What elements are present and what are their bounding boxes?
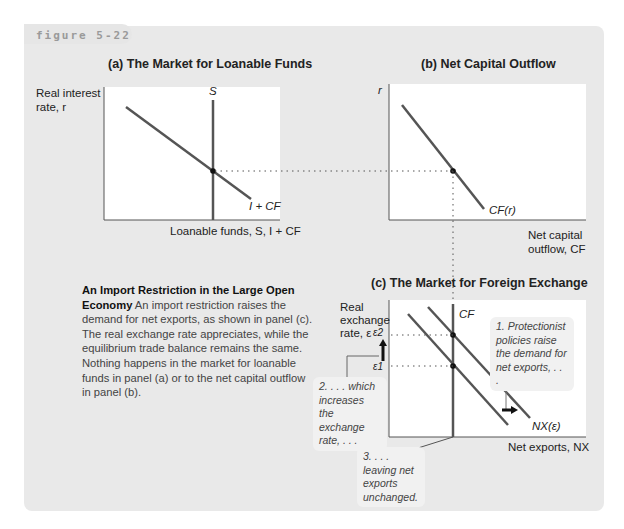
panel-c-title: (c) The Market for Foreign Exchange [371, 276, 588, 290]
panel-b-xlabel-1: Net capital [528, 228, 582, 242]
up-arrow-icon [379, 339, 387, 346]
annotation-3: 3. . . . leaving net exports unchanged. [357, 447, 425, 507]
panel-a-ylabel-2: rate, r [36, 100, 66, 114]
note3-connector [418, 437, 453, 448]
curve-label-nx: NX(ε) [532, 419, 561, 433]
curve-label-cf-r: CF(r) [489, 203, 516, 217]
curve-label-s: S [209, 84, 217, 98]
panel-c-ylabel-1: Real [340, 300, 364, 314]
annotation-1: 1. Protectionist policies raise the dema… [490, 317, 574, 391]
curve-label-i-cf: I + CF [249, 199, 281, 213]
tick-e1: ε1 [373, 360, 383, 374]
panel-b-xlabel-2: outflow, CF [528, 242, 586, 256]
panel-c-ylabel-3: rate, ε [340, 326, 371, 340]
figure-caption: An Import Restriction in the Large Open … [82, 283, 317, 400]
annotation-2: 2. . . . which increases the exchange ra… [313, 377, 387, 451]
caption-body: An import restriction raises the demand … [82, 299, 312, 399]
equilibrium-point-a [210, 168, 216, 174]
panel-a-ylabel-1: Real interest [36, 86, 101, 100]
panel-c-xlabel: Net exports, NX [508, 440, 589, 454]
panel-a-xlabel: Loanable funds, S, I + CF [170, 224, 301, 238]
tick-e2: ε2 [373, 326, 383, 340]
plot-area-b [389, 84, 586, 220]
panel-a-title: (a) The Market for Loanable Funds [108, 57, 312, 71]
panel-c-ylabel-2: exchange [340, 313, 390, 327]
panel-b-title: (b) Net Capital Outflow [421, 57, 556, 71]
curve-label-cf: CF [459, 307, 474, 321]
panel-b-ylabel: r [378, 83, 382, 97]
